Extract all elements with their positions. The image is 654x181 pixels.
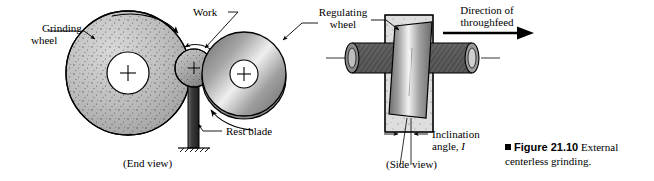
label-inclination-angle-symbol: I	[461, 140, 465, 152]
figure-caption: Figure 21.10 External centerless grindin…	[505, 140, 654, 168]
throughfeed-arrow	[443, 27, 534, 40]
label-inclination-angle-line1: Inclination	[432, 128, 480, 140]
label-direction-of-throughfeed: Direction of throughfeed	[440, 4, 534, 28]
label-work: Work	[193, 6, 217, 18]
label-grinding-wheel-line1: Grinding wheel	[31, 22, 82, 46]
regulating-wheel-block	[389, 22, 432, 118]
caption-number: Figure 21.10	[514, 141, 578, 153]
caption-square-bullet-icon	[505, 144, 511, 150]
side-view-group	[283, 15, 534, 165]
regulating-wheel-end-view	[202, 32, 286, 119]
ground-hatch	[180, 148, 209, 152]
label-inclination-angle-line2: angle,	[432, 140, 461, 152]
label-rest-blade: Rest blade	[226, 125, 272, 137]
label-end-view: (End view)	[123, 157, 172, 169]
label-side-view: (Side view)	[386, 158, 437, 170]
label-inclination-angle: Inclinationangle, I	[432, 128, 480, 152]
label-grinding-wheel: Grinding wheel	[31, 10, 82, 58]
grinding-wheel	[66, 11, 190, 135]
rest-blade-leader	[198, 124, 222, 131]
label-regulating-wheel: Regulating wheel	[306, 6, 380, 30]
figure-external-centerless-grinding: Grinding wheel Work Rest blade (End view…	[0, 0, 654, 181]
